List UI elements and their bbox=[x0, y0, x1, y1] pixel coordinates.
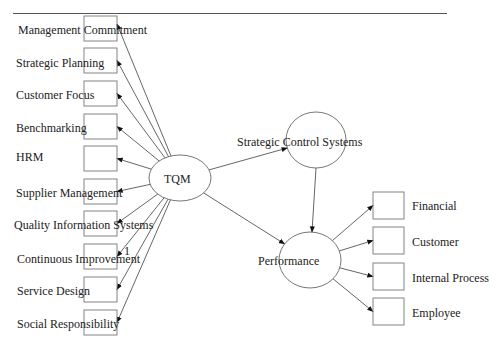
label-quality-information-systems: Quality Information Systems bbox=[14, 218, 153, 232]
indicator-box bbox=[373, 227, 404, 254]
label-benchmarking: Benchmarking bbox=[16, 121, 87, 135]
arrow-strategic-to-performance bbox=[312, 168, 316, 232]
arrow-tqm-to-strategic bbox=[209, 148, 287, 170]
arrow-tqm-to-indicator bbox=[117, 127, 159, 161]
label-customer-focus: Customer Focus bbox=[16, 88, 94, 102]
arrow-tqm-to-indicator bbox=[117, 24, 171, 156]
label-management-commitment: Management Commitment bbox=[18, 23, 147, 37]
sem-diagram bbox=[0, 0, 501, 351]
arrow-performance-to-indicator bbox=[340, 268, 373, 277]
label-service-design: Service Design bbox=[17, 284, 90, 298]
arrow-performance-to-indicator bbox=[339, 241, 373, 251]
arrow-tqm-to-performance bbox=[204, 193, 285, 244]
label-social-responsibility: Social Responsibility bbox=[17, 317, 119, 331]
indicator-box bbox=[84, 146, 117, 171]
arrow-performance-to-indicator bbox=[333, 279, 373, 312]
label-continuous-improvement: Continuous Improvement bbox=[17, 252, 140, 266]
label-supplier-management: Supplier Management bbox=[16, 186, 122, 200]
label-strategic-planning: Strategic Planning bbox=[16, 56, 104, 70]
arrow-tqm-to-indicator bbox=[117, 61, 169, 157]
indicator-box bbox=[373, 263, 404, 290]
indicator-box bbox=[84, 114, 117, 139]
label-customer: Customer bbox=[412, 235, 459, 249]
arrow-tqm-to-indicator bbox=[117, 159, 151, 170]
label-internal-process: Internal Process bbox=[412, 271, 489, 285]
label-employee: Employee bbox=[412, 306, 461, 320]
indicator-box bbox=[373, 192, 404, 219]
label-performance: Performance bbox=[258, 254, 319, 268]
label-strategic-control-systems: Strategic Control Systems bbox=[237, 135, 362, 149]
indicator-box bbox=[373, 298, 404, 325]
path-coefficient-label: 1 bbox=[124, 244, 130, 258]
arrow-performance-to-indicator bbox=[332, 206, 373, 241]
label-tqm: TQM bbox=[164, 172, 191, 186]
label-financial: Financial bbox=[412, 199, 457, 213]
label-hrm: HRM bbox=[16, 150, 43, 164]
arrow-tqm-to-indicator bbox=[117, 94, 165, 158]
